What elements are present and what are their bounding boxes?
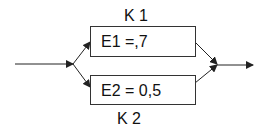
component-box-k1: E1 =,7 [90,26,196,57]
component-value-e1: E1 =,7 [101,34,148,50]
split-arrows [73,42,90,87]
component-box-k2: E2 = 0,5 [90,75,196,105]
component-label-k1: K 1 [124,8,148,24]
component-label-k2: K 2 [117,111,141,127]
merge-arrows [195,42,217,83]
component-value-e2: E2 = 0,5 [101,83,161,99]
